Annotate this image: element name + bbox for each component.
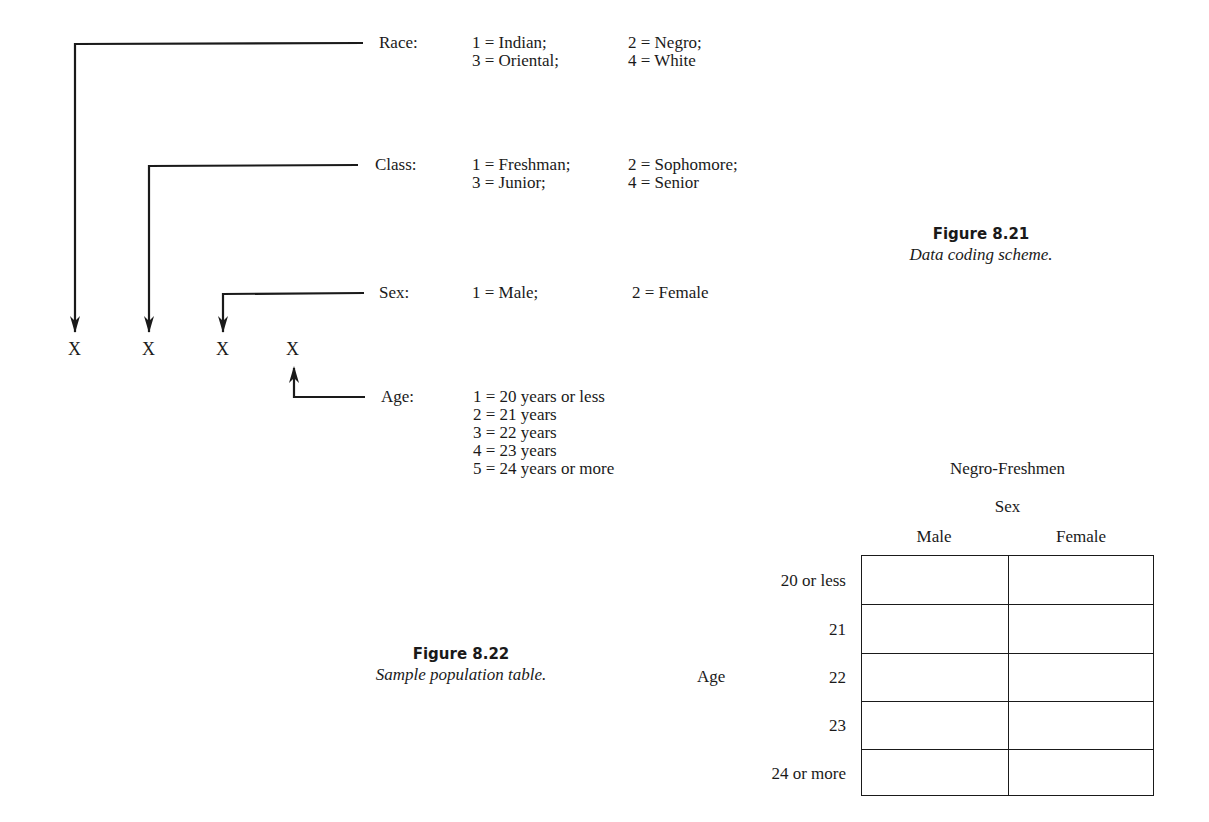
class-connector-arrow <box>149 165 358 332</box>
age-label: Age: <box>381 388 414 406</box>
code-position-sex: X <box>216 340 229 358</box>
population-table-grid <box>861 555 1154 796</box>
column-divider <box>1008 556 1009 795</box>
age-code-4: 4 = 23 years <box>473 442 557 460</box>
class-codes: 1 = Freshman;2 = Sophomore; 3 = Junior;4… <box>472 156 792 192</box>
figure-821-subtitle: Data coding scheme. <box>860 244 1102 266</box>
figure-822-caption: Figure 8.22 Sample population table. <box>330 644 592 686</box>
column-header-female: Female <box>1008 528 1154 546</box>
race-connector-arrow <box>75 43 363 332</box>
age-code-2: 2 = 21 years <box>473 406 557 424</box>
row-label-22: 22 <box>829 668 846 688</box>
column-group-label: Sex <box>861 498 1154 516</box>
row-label-21: 21 <box>829 620 846 640</box>
row-divider <box>862 749 1153 750</box>
sex-codes: 1 = Male;2 = Female <box>472 284 792 302</box>
sex-label: Sex: <box>379 284 409 302</box>
table-group-title: Negro-Freshmen <box>861 460 1154 478</box>
class-code-2: 2 = Sophomore; <box>628 156 738 174</box>
row-label-24-or-more: 24 or more <box>771 764 846 784</box>
class-code-1: 1 = Freshman; <box>472 156 570 174</box>
row-divider <box>862 604 1153 605</box>
race-code-2: 2 = Negro; <box>628 34 702 52</box>
class-code-4: 4 = Senior <box>628 174 699 192</box>
code-position-race: X <box>68 340 81 358</box>
class-code-3: 3 = Junior; <box>472 174 546 192</box>
row-group-label: Age <box>697 668 725 686</box>
race-code-1: 1 = Indian; <box>472 34 547 52</box>
age-code-3: 3 = 22 years <box>473 424 557 442</box>
figure-822-title: Figure 8.22 <box>330 644 592 664</box>
row-divider <box>862 653 1153 654</box>
class-label: Class: <box>375 156 417 174</box>
figure-822-subtitle: Sample population table. <box>330 664 592 686</box>
sex-code-1: 1 = Male; <box>472 284 538 302</box>
row-divider <box>862 701 1153 702</box>
race-code-3: 3 = Oriental; <box>472 52 559 70</box>
code-position-class: X <box>142 340 155 358</box>
race-codes: 1 = Indian;2 = Negro; 3 = Oriental;4 = W… <box>472 34 792 70</box>
age-connector-arrow <box>294 368 365 397</box>
row-label-20-or-less: 20 or less <box>781 571 846 591</box>
age-code-1: 1 = 20 years or less <box>473 388 605 406</box>
sex-code-2: 2 = Female <box>632 284 709 302</box>
sex-connector-arrow <box>223 293 364 332</box>
age-codes: 1 = 20 years or less 2 = 21 years 3 = 22… <box>473 388 793 478</box>
race-label: Race: <box>379 34 418 52</box>
race-code-4: 4 = White <box>628 52 696 70</box>
code-position-age: X <box>286 340 299 358</box>
column-header-male: Male <box>861 528 1007 546</box>
figure-821-title: Figure 8.21 <box>860 224 1102 244</box>
row-label-23: 23 <box>829 716 846 736</box>
age-code-5: 5 = 24 years or more <box>473 460 614 478</box>
figure-821-caption: Figure 8.21 Data coding scheme. <box>860 224 1102 266</box>
